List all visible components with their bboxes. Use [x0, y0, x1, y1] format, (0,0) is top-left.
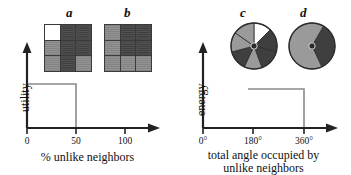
- y-axis-arrow: [23, 42, 32, 53]
- utility-step-curve: [28, 84, 76, 127]
- y-axis-label-utility: utility: [18, 83, 33, 112]
- y-axis-label-energy: energy: [194, 84, 209, 116]
- panel-energy: c d energy 0° 180° 360° total angle occu…: [176, 0, 351, 175]
- y-axis-arrow: [199, 42, 208, 53]
- panel-utility: a b utility 0 50 100 % unlike neighbors: [0, 0, 175, 175]
- x-tick-label-0: 0: [18, 136, 36, 146]
- x-axis-label-total-angle-line2: unlike neighbors: [176, 161, 351, 175]
- x-axis-label-unlike-neighbors: % unlike neighbors: [0, 150, 175, 164]
- x-axis-label-total-angle-line1: total angle occupied by: [176, 148, 351, 162]
- x-tick-label-50: 50: [67, 136, 85, 146]
- figure-container: a b utility 0 50 100 % unlike neighbors: [0, 0, 351, 175]
- x-tick-label-100: 100: [115, 136, 135, 146]
- x-tick-label-360deg: 360°: [292, 136, 316, 146]
- x-tick-label-180deg: 180°: [241, 136, 265, 146]
- energy-step-curve: [248, 89, 304, 127]
- x-tick-label-0deg: 0°: [194, 136, 212, 146]
- x-axis-arrow: [326, 124, 338, 133]
- x-axis-arrow: [148, 124, 160, 133]
